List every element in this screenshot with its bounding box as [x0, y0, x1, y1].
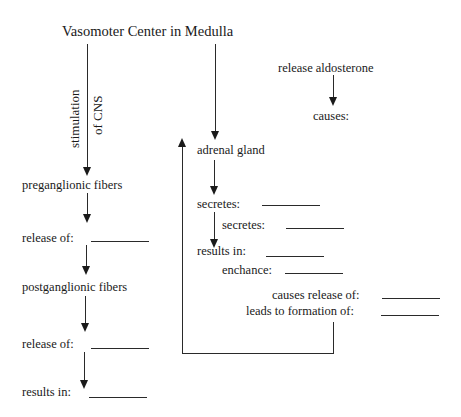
arrow-down-icon — [81, 323, 89, 332]
arrow-down-icon — [329, 97, 337, 106]
node-release-aldosterone: release aldosterone — [278, 61, 373, 75]
node-results-in: results in: — [22, 385, 71, 399]
node-secretes-1: secretes: — [197, 197, 240, 211]
answer-blank-secretes-2[interactable] — [286, 228, 344, 229]
node-release-of-1: release of: — [22, 231, 74, 245]
node-results-in-middle: results in: — [197, 244, 246, 258]
connector-title-to-preganglionic — [87, 44, 88, 170]
node-causes: causes: — [313, 109, 349, 123]
node-enchance: enchance: — [222, 263, 272, 277]
answer-blank-release-of-1[interactable] — [91, 241, 149, 242]
node-causes-release-of: causes release of: — [272, 288, 359, 302]
diagram-title: Vasomoter Center in Medulla — [62, 24, 233, 38]
connector-title-to-adrenal — [215, 44, 216, 134]
arrow-down-icon — [83, 167, 91, 176]
feedback-loop-left — [182, 146, 183, 354]
feedback-loop-bottom — [182, 353, 334, 354]
arrow-down-icon — [82, 266, 90, 275]
connector — [214, 212, 215, 242]
answer-blank-leads-to-formation-of[interactable] — [381, 315, 439, 316]
node-secretes-2: secretes: — [222, 218, 265, 232]
answer-blank-causes-release-of[interactable] — [382, 298, 440, 299]
connector — [84, 352, 85, 382]
arrow-down-icon — [83, 214, 91, 223]
feedback-loop-right — [333, 322, 334, 354]
arrow-down-icon — [211, 131, 219, 140]
node-release-of-2: release of: — [22, 337, 74, 351]
node-preganglionic-fibers: preganglionic fibers — [22, 178, 122, 192]
node-adrenal-gland: adrenal gland — [197, 143, 265, 157]
connector — [214, 160, 215, 188]
answer-blank-enchance[interactable] — [285, 273, 343, 274]
arrow-up-icon — [178, 138, 186, 147]
connector — [85, 296, 86, 326]
node-postganglionic-fibers: postganglionic fibers — [22, 280, 127, 294]
edge-label-stimulation: stimulation — [68, 90, 82, 149]
node-leads-to-formation-of: leads to formation of: — [246, 304, 354, 318]
answer-blank-results-in-middle[interactable] — [266, 256, 324, 257]
edge-label-of-cns: of CNS — [91, 96, 105, 135]
arrow-down-icon — [80, 380, 88, 389]
answer-blank-secretes-1[interactable] — [262, 205, 320, 206]
connector — [333, 75, 334, 99]
vasomotor-flow-diagram: Vasomoter Center in Medulla stimulation … — [0, 0, 461, 417]
answer-blank-release-of-2[interactable] — [91, 348, 149, 349]
answer-blank-results-in-left[interactable] — [89, 397, 147, 398]
arrow-down-icon — [210, 186, 218, 195]
